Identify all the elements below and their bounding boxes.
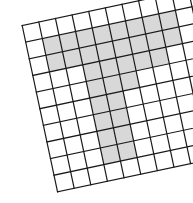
figure-canvas bbox=[0, 0, 193, 203]
grid-group bbox=[22, 0, 193, 192]
rotated-grid-figure bbox=[0, 0, 193, 203]
